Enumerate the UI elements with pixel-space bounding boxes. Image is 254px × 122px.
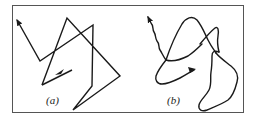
panel-b-label: (b) <box>167 94 180 106</box>
panel-a-path <box>17 18 120 110</box>
panel-b-path <box>148 17 238 111</box>
figure-art <box>0 0 254 122</box>
panel-a-label: (a) <box>46 94 59 106</box>
